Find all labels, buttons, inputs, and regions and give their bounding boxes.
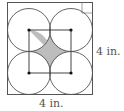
geometry-diagram: 4 in. 4 in. xyxy=(0,0,124,111)
center-dot-top-right xyxy=(69,28,72,31)
center-dot-bottom-right xyxy=(69,71,72,74)
bottom-side-label: 4 in. xyxy=(39,97,64,110)
right-side-label: 4 in. xyxy=(96,45,121,58)
center-dot-top-left xyxy=(27,28,30,31)
right-angle-marker xyxy=(82,3,93,14)
center-dot-bottom-left xyxy=(27,71,30,74)
